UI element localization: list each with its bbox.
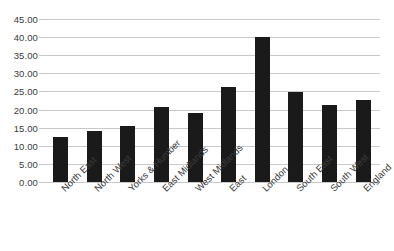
bar-slot xyxy=(246,19,280,182)
x-label-slot: East xyxy=(212,184,246,251)
x-label-slot: England xyxy=(346,184,380,251)
y-axis-tick-label: 20.00 xyxy=(0,104,38,115)
x-label-slot: South West xyxy=(313,184,347,251)
bar[interactable] xyxy=(288,92,303,182)
x-label-slot: North West xyxy=(78,184,112,251)
y-axis-tick-label: 5.00 xyxy=(0,158,38,169)
y-axis-tick-label: 0.00 xyxy=(0,177,38,188)
x-label-slot: Yorks & Humber xyxy=(111,184,145,251)
y-axis-tick-label: 35.00 xyxy=(0,50,38,61)
y-axis-tick-label: 25.00 xyxy=(0,86,38,97)
bar[interactable] xyxy=(255,37,270,182)
x-label-slot: North East xyxy=(44,184,78,251)
x-axis: North EastNorth WestYorks & HumberEast M… xyxy=(44,184,380,251)
y-axis-tick-label: 30.00 xyxy=(0,68,38,79)
x-label-slot: West Midlands xyxy=(178,184,212,251)
bar[interactable] xyxy=(53,137,68,182)
bar-slot xyxy=(44,19,78,182)
y-axis-tick-label: 40.00 xyxy=(0,32,38,43)
y-axis-tick-label: 15.00 xyxy=(0,122,38,133)
bar-slot xyxy=(279,19,313,182)
y-axis: 45.0040.0035.0030.0025.0020.0015.0010.00… xyxy=(0,0,44,251)
y-axis-tick-label: 45.00 xyxy=(0,14,38,25)
x-label-slot: South East xyxy=(279,184,313,251)
x-label-slot: London xyxy=(246,184,280,251)
x-label-slot: East Midlands xyxy=(145,184,179,251)
y-axis-tick-label: 10.00 xyxy=(0,140,38,151)
